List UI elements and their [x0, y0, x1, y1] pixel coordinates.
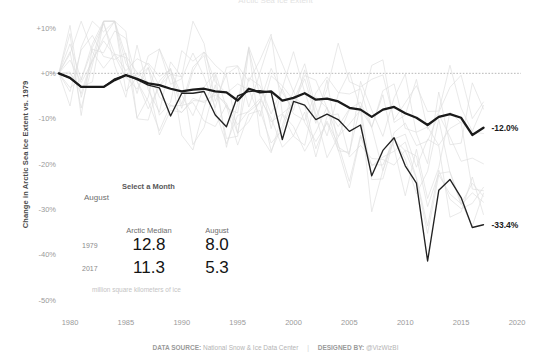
- row-header-1979: 1979: [82, 242, 98, 249]
- footer-credits: DATA SOURCE: National Snow & Ice Data Ce…: [0, 344, 551, 351]
- y-tick-0: +10%: [37, 24, 57, 33]
- median-endpoint-label: -12.0%: [491, 123, 518, 133]
- y-tick-4: -30%: [38, 205, 56, 214]
- value-1979-median: 12.8: [118, 235, 180, 255]
- x-tick-8: 2020: [509, 318, 526, 327]
- column-header-arctic-median: Arctic Median: [118, 226, 180, 235]
- footer-separator: |: [300, 344, 316, 351]
- line-chart-svg: +10%+0%-10%-20%-30%-40%-50% 198019851990…: [0, 0, 551, 359]
- arctic-median-line: [59, 73, 484, 135]
- background-line: [59, 25, 484, 170]
- x-tick-2: 1990: [173, 318, 190, 327]
- arctic-median-series-line: [59, 73, 484, 135]
- select-month-label: Select a Month: [122, 182, 175, 191]
- y-axis-tick-labels: +10%+0%-10%-20%-30%-40%-50%: [37, 24, 57, 305]
- x-tick-5: 2005: [341, 318, 358, 327]
- designer-value: @VizWizBI: [366, 344, 398, 351]
- chart-container: Arctic Sea Ice Extent Change in Arctic S…: [0, 0, 551, 359]
- x-tick-7: 2015: [453, 318, 470, 327]
- units-footnote: million square kilometers of ice: [92, 286, 181, 293]
- x-tick-1: 1985: [118, 318, 135, 327]
- x-tick-4: 2000: [285, 318, 302, 327]
- x-axis-tick-labels: 198019851990199520002005201020152020: [62, 318, 526, 327]
- august-endpoint-label: -33.4%: [491, 220, 518, 230]
- y-tick-3: -20%: [38, 160, 56, 169]
- data-source-label: DATA SOURCE:: [153, 344, 202, 351]
- designer-label: DESIGNED BY:: [318, 344, 364, 351]
- y-tick-5: -40%: [38, 250, 56, 259]
- y-tick-6: -50%: [38, 296, 56, 305]
- data-source-value: National Snow & Ice Data Center: [203, 344, 298, 351]
- x-tick-3: 1995: [229, 318, 246, 327]
- row-header-2017: 2017: [82, 265, 98, 272]
- x-tick-0: 1980: [62, 318, 79, 327]
- selected-month-value[interactable]: August: [84, 193, 109, 202]
- value-1979-month: 8.0: [194, 235, 240, 255]
- value-2017-month: 5.3: [194, 258, 240, 278]
- value-2017-median: 11.3: [118, 258, 180, 278]
- column-header-month: August: [194, 226, 240, 235]
- y-tick-2: -10%: [38, 114, 56, 123]
- x-tick-6: 2010: [397, 318, 414, 327]
- month-selector-card[interactable]: Select a Month August Arctic Median Augu…: [84, 173, 274, 299]
